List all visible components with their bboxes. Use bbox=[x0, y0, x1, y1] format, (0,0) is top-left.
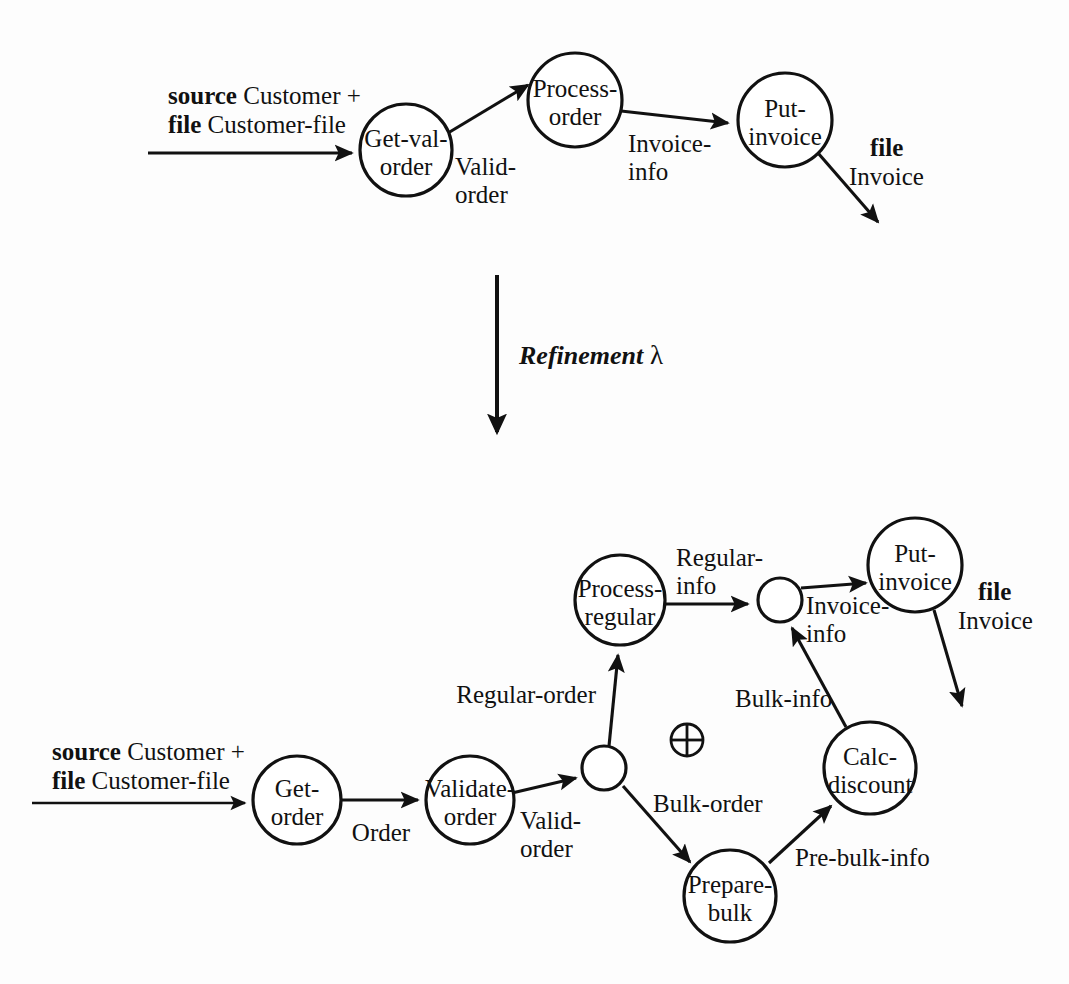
concrete-edge-regular-order-arrow bbox=[609, 655, 618, 746]
concrete-node-put-invoice[interactable]: Put- invoice bbox=[868, 518, 962, 612]
concrete-node-validate-order[interactable]: Validate- order bbox=[425, 756, 515, 844]
refinement-lambda-symbol: λ bbox=[650, 340, 663, 370]
node-label-line2: order bbox=[549, 103, 602, 130]
concrete-output-text: Invoice bbox=[958, 607, 1033, 634]
concrete-edge-order-label: Order bbox=[352, 819, 411, 846]
concrete-node-prepare-bulk[interactable]: Prepare- bulk bbox=[684, 850, 776, 942]
node-label-line1: Process- bbox=[533, 75, 618, 102]
node-label-line2: order bbox=[380, 153, 433, 180]
abstract-node-put-invoice[interactable]: Put- invoice bbox=[738, 73, 832, 167]
concrete-node-process-regular[interactable]: Process- regular bbox=[575, 555, 665, 645]
concrete-edge-bulk-info-label: Bulk-info bbox=[735, 685, 832, 712]
abstract-input-label-line2: file Customer-file bbox=[168, 111, 346, 138]
refinement-annotation: Refinement λ bbox=[497, 275, 663, 432]
concrete-edge-valid-order-arrow bbox=[512, 778, 576, 793]
node-label-line1: Get-val- bbox=[364, 125, 447, 152]
dataflow-diagram: source Customer + file Customer-file Val… bbox=[0, 0, 1069, 984]
node-label-line1: Prepare- bbox=[688, 871, 773, 898]
concrete-edge-regular-info-label-line1: Regular- bbox=[676, 544, 763, 571]
concrete-node-get-order[interactable]: Get- order bbox=[253, 756, 341, 844]
concrete-node-calc-discount[interactable]: Calc- discount bbox=[824, 722, 916, 814]
concrete-input-label-line1: source Customer + bbox=[52, 738, 245, 765]
node-label-line1: Process- bbox=[578, 575, 663, 602]
node-label-line2: order bbox=[271, 803, 324, 830]
concrete-edge-valid-order-label-line2: order bbox=[520, 835, 573, 862]
concrete-input-label-line2: file Customer-file bbox=[52, 767, 230, 794]
abstract-output-text: Invoice bbox=[849, 163, 924, 190]
abstract-diagram: source Customer + file Customer-file Val… bbox=[148, 53, 924, 222]
concrete-edge-regular-order-label: Regular-order bbox=[456, 681, 596, 708]
node-label-line2: discount bbox=[828, 771, 913, 798]
diagram-page: source Customer + file Customer-file Val… bbox=[0, 0, 1069, 984]
abstract-node-process-order[interactable]: Process- order bbox=[528, 53, 622, 147]
concrete-junction-split-node[interactable] bbox=[582, 746, 626, 790]
concrete-edge-bulk-order-label: Bulk-order bbox=[653, 790, 763, 817]
concrete-junction-merge-node[interactable] bbox=[758, 578, 802, 622]
node-label-line1: Calc- bbox=[843, 743, 897, 770]
abstract-edge-invoice-info-arrow bbox=[621, 111, 728, 123]
node-label-line2: bulk bbox=[708, 899, 753, 926]
node-label-line2: invoice bbox=[748, 123, 822, 150]
node-label-line1: Put- bbox=[894, 540, 936, 567]
abstract-edge-invoice-info-label-line1: Invoice- bbox=[628, 130, 711, 157]
abstract-edge-invoice-info-label-line2: info bbox=[628, 158, 668, 185]
abstract-input-label-line1: source Customer + bbox=[168, 82, 361, 109]
concrete-diagram: source Customer + file Customer-file Ord… bbox=[32, 518, 1033, 942]
node-label-line1: Get- bbox=[275, 775, 319, 802]
concrete-edge-invoice-info-label-line2: info bbox=[806, 620, 846, 647]
abstract-edge-valid-order-label-line2: order bbox=[455, 181, 508, 208]
xor-operator-icon bbox=[671, 724, 703, 756]
concrete-edge-valid-order-label-line1: Valid- bbox=[520, 807, 581, 834]
node-label-line2: invoice bbox=[878, 568, 952, 595]
refinement-label: Refinement bbox=[518, 341, 644, 370]
concrete-edge-pre-bulk-info-label: Pre-bulk-info bbox=[795, 844, 930, 871]
concrete-edge-invoice-info-label-line1: Invoice- bbox=[806, 592, 889, 619]
concrete-edge-regular-info-label-line2: info bbox=[676, 572, 716, 599]
node-label-line1: Put- bbox=[764, 95, 806, 122]
abstract-output-keyword: file bbox=[870, 134, 903, 161]
node-label-line2: order bbox=[444, 803, 497, 830]
abstract-edge-valid-order-label-line1: Valid- bbox=[455, 153, 516, 180]
concrete-output-keyword: file bbox=[978, 578, 1011, 605]
concrete-edge-invoice-info-arrow bbox=[801, 583, 866, 588]
abstract-node-get-val-order[interactable]: Get-val- order bbox=[360, 104, 452, 196]
node-label-line2: regular bbox=[585, 603, 656, 630]
node-label-line1: Validate- bbox=[425, 775, 515, 802]
abstract-edge-valid-order-arrow bbox=[448, 85, 528, 133]
